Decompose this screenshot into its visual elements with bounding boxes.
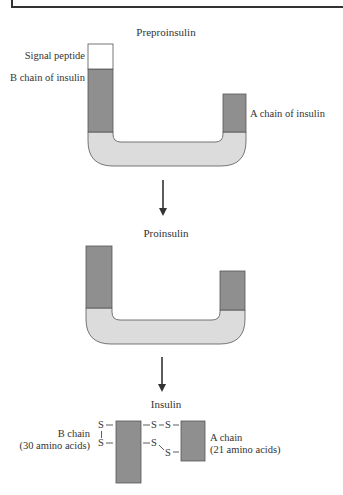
b-chain-segment: [88, 69, 113, 132]
insulin-shape: S S S S S S: [98, 419, 205, 483]
svg-text:S: S: [151, 437, 157, 448]
proinsulin-shape: [86, 246, 245, 344]
arrow-down-icon: [159, 180, 167, 216]
a-chain-block: [181, 421, 205, 461]
svg-text:S: S: [98, 437, 104, 448]
preproinsulin-shape: [88, 44, 246, 166]
b-chain-block: [116, 421, 141, 483]
signal-peptide-segment: [88, 44, 113, 69]
c-peptide-segment: [88, 132, 246, 166]
svg-text:S: S: [165, 419, 171, 430]
a-chain-segment: [223, 94, 246, 132]
svg-text:S: S: [98, 419, 104, 430]
svg-text:S: S: [165, 447, 171, 458]
c-peptide-segment: [86, 308, 245, 344]
svg-text:S: S: [151, 419, 157, 430]
b-chain-segment: [86, 246, 112, 308]
arrow-down-icon: [158, 357, 166, 392]
a-chain-segment: [220, 271, 245, 310]
